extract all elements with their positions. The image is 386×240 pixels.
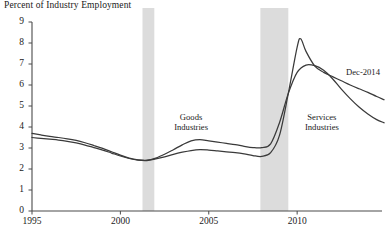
series-label-line: Services <box>292 112 352 122</box>
y-tick-label: 6 <box>10 79 24 89</box>
x-tick-label: 2005 <box>189 216 229 226</box>
recession-shading <box>142 8 154 211</box>
y-tick-label: 0 <box>10 205 24 215</box>
x-tick-label: 1995 <box>12 216 52 226</box>
y-tick-label: 5 <box>10 100 24 110</box>
series-label-line: Industries <box>292 122 352 132</box>
annotation-dec-2014: Dec-2014 <box>346 67 380 77</box>
y-tick-label: 8 <box>10 37 24 47</box>
series-label-services: ServicesIndustries <box>292 112 352 132</box>
series-label-goods: GoodsIndustries <box>161 112 221 132</box>
y-tick-label: 7 <box>10 58 24 68</box>
y-tick-label: 4 <box>10 121 24 131</box>
x-tick-label: 2010 <box>277 216 317 226</box>
series-label-line: Goods <box>161 112 221 122</box>
y-tick-label: 9 <box>10 16 24 26</box>
y-tick-label: 1 <box>10 184 24 194</box>
x-tick-label: 2000 <box>100 216 140 226</box>
series-label-line: Industries <box>161 122 221 132</box>
chart-container: Percent of Industry Employment 012345678… <box>0 0 386 240</box>
y-tick-label: 2 <box>10 163 24 173</box>
y-tick-label: 3 <box>10 142 24 152</box>
